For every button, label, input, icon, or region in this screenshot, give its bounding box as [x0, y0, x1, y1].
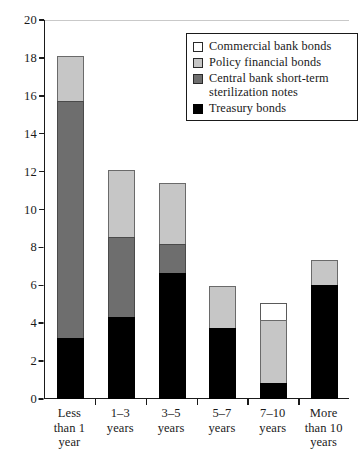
legend-item-label: Central bank short-term sterilization no…	[209, 71, 329, 99]
bar-stack[interactable]	[108, 170, 135, 398]
legend-item-label: Treasury bonds	[209, 101, 286, 115]
legend-swatch-icon	[193, 58, 203, 68]
legend-item[interactable]: Policy financial bonds	[193, 55, 350, 69]
bar-segment[interactable]	[57, 338, 84, 399]
x-axis-category-label: More than 10 years	[298, 406, 349, 450]
x-axis-tick-mark	[247, 399, 249, 405]
bar-segment[interactable]	[159, 273, 186, 399]
y-axis-tick-label: 4	[31, 317, 44, 330]
x-axis-category-label: 1–3 years	[95, 406, 146, 435]
bar-segment[interactable]	[108, 237, 135, 318]
y-axis-tick-label: 0	[31, 393, 44, 406]
x-axis-category-label: 3–5 years	[146, 406, 197, 435]
y-axis-tick-label: 14	[24, 127, 44, 140]
y-axis-tick-label: 20	[24, 14, 44, 27]
bar-segment[interactable]	[209, 328, 236, 399]
bar-segment[interactable]	[311, 285, 338, 399]
legend-item-label: Policy financial bonds	[209, 55, 321, 69]
x-axis-category-label: 7–10 years	[247, 406, 298, 435]
bar-stack[interactable]	[260, 303, 287, 399]
legend: Commercial bank bondsPolicy financial bo…	[186, 33, 358, 121]
y-axis-tick-label: 8	[31, 241, 44, 254]
bar-stack[interactable]	[311, 260, 338, 398]
y-axis-tick-label: 2	[31, 355, 44, 368]
y-axis-tick-label: 18	[24, 52, 44, 65]
bar-stack[interactable]	[159, 183, 186, 398]
y-axis-tick-label: 10	[24, 203, 44, 216]
bar-segment[interactable]	[209, 286, 236, 329]
y-axis-tick-label: 12	[24, 165, 44, 178]
bar-segment[interactable]	[108, 317, 135, 399]
x-axis-category-label: 5–7 years	[197, 406, 248, 435]
bar-stack[interactable]	[57, 56, 84, 398]
bar-segment[interactable]	[260, 303, 287, 322]
bar-segment[interactable]	[260, 383, 287, 399]
x-axis-tick-mark	[95, 399, 97, 405]
bar-segment[interactable]	[311, 260, 338, 287]
legend-swatch-icon	[193, 74, 203, 84]
bar-segment[interactable]	[57, 56, 84, 101]
bar-segment[interactable]	[260, 320, 287, 383]
x-axis-tick-mark	[146, 399, 148, 405]
bar-segment[interactable]	[108, 170, 135, 238]
figure: 02468101214161820 Less than 1 year1–3 ye…	[0, 0, 363, 458]
legend-swatch-icon	[193, 104, 203, 114]
legend-item[interactable]: Commercial bank bonds	[193, 39, 350, 53]
y-axis-tick-label: 6	[31, 279, 44, 292]
x-axis-labels: Less than 1 year1–3 years3–5 years5–7 ye…	[44, 406, 349, 456]
x-axis-tick-mark	[197, 399, 199, 405]
bar-segment[interactable]	[159, 183, 186, 245]
bar-segment[interactable]	[159, 244, 186, 274]
legend-item[interactable]: Central bank short-term sterilization no…	[193, 71, 350, 99]
legend-item[interactable]: Treasury bonds	[193, 101, 350, 115]
x-axis-tick-mark	[298, 399, 300, 405]
bar-segment[interactable]	[57, 101, 84, 340]
x-axis-category-label: Less than 1 year	[44, 406, 95, 450]
y-axis-tick-label: 16	[24, 90, 44, 103]
legend-swatch-icon	[193, 42, 203, 52]
bar-stack[interactable]	[209, 286, 236, 398]
legend-item-label: Commercial bank bonds	[209, 39, 331, 53]
